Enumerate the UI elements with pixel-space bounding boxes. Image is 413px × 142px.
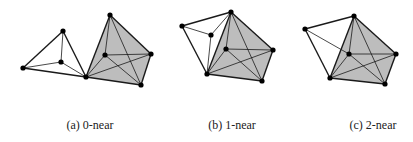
vertex-dot xyxy=(382,81,387,86)
boundary-edge xyxy=(23,68,86,77)
figure: (a) 0-near (b) 1-near (c) 2-near xyxy=(0,0,413,142)
vertex-dot xyxy=(346,51,351,56)
boundary-edge xyxy=(305,16,354,29)
vertex-dot xyxy=(393,51,398,56)
caption-b: (b) 1-near xyxy=(208,118,256,133)
vertex-dot xyxy=(179,23,184,28)
panel-a xyxy=(20,12,153,87)
vertex-dot xyxy=(208,32,213,37)
boundary-edge xyxy=(182,26,207,74)
vertex-dot xyxy=(259,78,264,83)
vertex-dot xyxy=(148,51,153,56)
caption-a: (a) 0-near xyxy=(67,118,114,133)
caption-c: (c) 2-near xyxy=(350,118,397,133)
thin-edge xyxy=(61,31,63,62)
vertex-dot xyxy=(107,12,112,17)
vertex-dot xyxy=(270,47,275,52)
vertex-dot xyxy=(102,52,107,57)
vertex-dot xyxy=(20,65,25,70)
vertex-dot xyxy=(60,28,65,33)
vertex-dot xyxy=(302,26,307,31)
vertex-dot xyxy=(58,59,63,64)
panel-b xyxy=(179,9,275,83)
vertex-dot xyxy=(223,46,228,51)
vertex-dot xyxy=(83,74,88,79)
vertex-dot xyxy=(327,75,332,80)
vertex-dot xyxy=(228,9,233,14)
vertex-dot xyxy=(351,13,356,18)
vertex-dot xyxy=(204,71,209,76)
shaded-region xyxy=(330,16,396,84)
vertex-dot xyxy=(138,82,143,87)
panel-c xyxy=(302,13,398,86)
boundary-edge xyxy=(182,12,231,26)
